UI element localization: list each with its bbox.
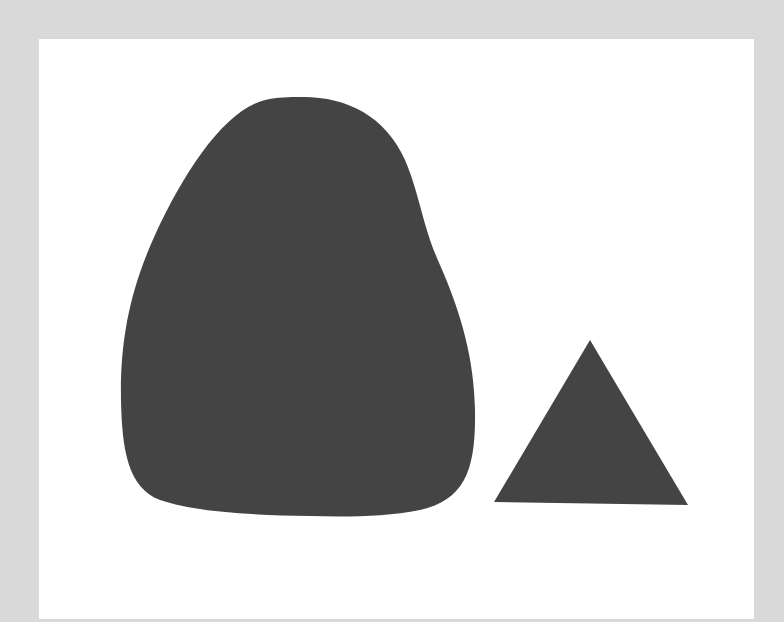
triangle-shape (494, 340, 688, 505)
artwork-canvas (0, 0, 784, 622)
rounded-blob-shape (121, 97, 475, 517)
